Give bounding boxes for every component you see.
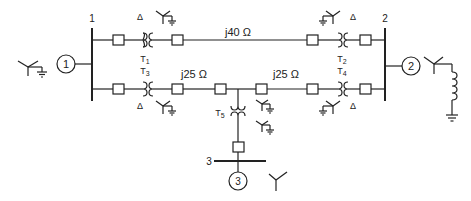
wye-grounded-icon [18, 61, 47, 77]
transformer-T3-label: T3 [140, 66, 150, 77]
power-system-diagram: 1 1 2 [0, 0, 471, 201]
bus-2-label: 2 [382, 13, 388, 24]
transformer-T5-label: T5 [215, 108, 225, 119]
delta-label: Δ [137, 101, 143, 111]
wye-grounded-icon [256, 100, 274, 113]
breaker-icon [172, 84, 183, 94]
breaker-icon [360, 84, 371, 94]
wye-grounded-icon [319, 11, 340, 25]
generator-1-label: 1 [63, 58, 69, 70]
t5-branch: T5 3 3 [206, 89, 287, 191]
wye-grounded-icon [256, 121, 274, 134]
generator-1: 1 [57, 55, 92, 73]
wye-grounded-icon [156, 11, 176, 25]
transformer-T4-label: T4 [337, 66, 347, 77]
breaker-icon [360, 35, 371, 45]
generator-2: 2 [385, 57, 420, 75]
generator-2-label: 2 [408, 60, 414, 72]
bus-2: 2 [382, 13, 388, 101]
wye-grounded-icon [319, 101, 340, 115]
upper-branch: j40 Ω Δ T1 Δ T2 [92, 11, 385, 65]
bus-3-label: 3 [206, 156, 212, 167]
bus-1-label: 1 [89, 13, 95, 24]
breaker-icon [256, 84, 267, 94]
breaker-icon [307, 35, 318, 45]
breaker-icon [113, 84, 124, 94]
transformer-T2-label: T2 [337, 54, 347, 65]
transformer-T1-label: T1 [140, 54, 150, 65]
breaker-icon [113, 35, 124, 45]
wye-grounded-icon [156, 101, 176, 115]
generator-3-label: 3 [235, 176, 241, 187]
delta-label: Δ [350, 101, 356, 111]
transformer-coil-icon [231, 106, 245, 110]
line-impedance-j25-left: j25 Ω [180, 68, 207, 80]
breaker-icon [233, 142, 244, 152]
delta-label: Δ [350, 12, 356, 22]
reactor-coil-icon [452, 72, 457, 100]
wye-ungrounded-icon [269, 172, 287, 191]
line-impedance-j25-right: j25 Ω [272, 68, 299, 80]
breaker-icon [172, 35, 183, 45]
breaker-icon [307, 84, 318, 94]
delta-label: Δ [137, 12, 143, 22]
wye-grounded-reactor-icon [424, 57, 458, 121]
breaker-icon [215, 84, 226, 94]
line-impedance-j40: j40 Ω [224, 26, 251, 38]
bus-1: 1 [89, 13, 95, 101]
